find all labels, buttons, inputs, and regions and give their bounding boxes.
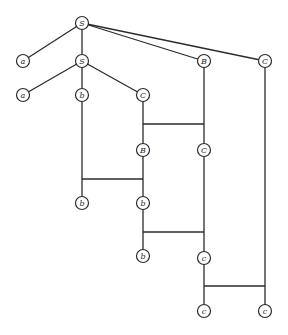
tree-node-b4: b xyxy=(137,250,150,263)
tree-node-C1: C xyxy=(259,55,272,68)
tree-node-a2: a xyxy=(17,89,30,102)
tree-edges xyxy=(23,23,265,311)
node-label: a xyxy=(21,91,26,100)
node-label: c xyxy=(263,307,268,316)
tree-nodes: SaSBCabCBCbbbccc xyxy=(17,17,272,318)
node-label: B xyxy=(200,57,207,66)
tree-node-S2: S xyxy=(76,55,89,68)
tree-node-c2: c xyxy=(198,305,211,318)
tree-node-B1: B xyxy=(198,55,211,68)
node-label: S xyxy=(79,19,85,28)
tree-node-c1: c xyxy=(198,252,211,265)
tree-node-a1: a xyxy=(17,55,30,68)
node-label: b xyxy=(140,252,145,261)
tree-node-b3: b xyxy=(137,197,150,210)
node-label: C xyxy=(140,91,146,100)
tree-edge xyxy=(82,61,143,95)
node-label: C xyxy=(262,57,268,66)
node-label: b xyxy=(140,199,145,208)
node-label: S xyxy=(79,57,85,66)
node-label: C xyxy=(201,146,207,155)
tree-node-C2: C xyxy=(137,89,150,102)
tree-edge xyxy=(23,23,82,61)
node-label: c xyxy=(202,307,207,316)
tree-node-B2: B xyxy=(137,144,150,157)
node-label: B xyxy=(139,146,146,155)
tree-edge xyxy=(23,61,82,95)
node-label: b xyxy=(79,91,84,100)
tree-node-S_root: S xyxy=(76,17,89,30)
tree-node-c3: c xyxy=(259,305,272,318)
tree-edge xyxy=(82,23,265,61)
tree-node-C3: C xyxy=(198,144,211,157)
node-label: b xyxy=(79,199,84,208)
node-label: a xyxy=(21,57,26,66)
derivation-tree-diagram: SaSBCabCBCbbbccc xyxy=(0,0,288,335)
tree-node-b2: b xyxy=(76,197,89,210)
node-label: c xyxy=(202,254,207,263)
tree-node-b1: b xyxy=(76,89,89,102)
tree-edge xyxy=(82,23,204,61)
